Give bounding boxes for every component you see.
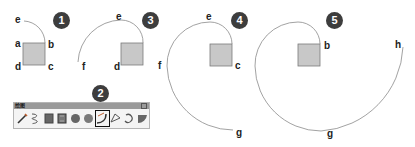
point-label-g: g [327, 129, 333, 139]
three-point-arc-icon [123, 113, 134, 124]
point-label-c: c [48, 62, 54, 72]
point-label-b: b [48, 40, 54, 50]
drawing-toolbar: 绘图 [13, 102, 150, 129]
rotated-rectangle-icon [57, 113, 67, 124]
toolbar-title: 绘图 [15, 102, 25, 109]
pencil-icon [17, 113, 28, 124]
point-label-e: e [206, 12, 212, 22]
toolbar-titlebar[interactable]: 绘图 [14, 103, 149, 109]
circle-tool-button[interactable] [69, 111, 82, 126]
freehand-tool-button[interactable] [29, 111, 42, 126]
arc-panel-4 [167, 22, 233, 130]
point-label-d: d [15, 62, 21, 72]
pie-tool-button[interactable] [136, 111, 149, 126]
square-panel-1 [23, 43, 45, 65]
step-badge-3: 3 [142, 12, 159, 29]
polygon-tool-button[interactable] [82, 111, 95, 126]
step-badge-1: 1 [53, 12, 70, 29]
circle-icon [70, 113, 81, 124]
step-badge-2: 2 [92, 85, 109, 102]
point-label-h: h [395, 40, 401, 50]
pie-icon [137, 113, 148, 124]
two-point-arc-icon [110, 113, 121, 124]
rectangle-icon [44, 113, 54, 124]
rotated-rectangle-tool-button[interactable] [56, 111, 69, 126]
freehand-icon [30, 113, 41, 125]
square-panel-3 [121, 43, 143, 65]
line-tool-button[interactable] [16, 111, 29, 126]
point-label-g: g [236, 128, 242, 138]
step-badge-4: 4 [231, 12, 248, 29]
point-label-c: c [235, 61, 241, 71]
square-panel-5 [298, 44, 320, 66]
arc-icon [96, 112, 108, 125]
arc-panel-1 [24, 21, 45, 43]
point-label-d: d [114, 62, 120, 72]
rectangle-tool-button[interactable] [43, 111, 56, 126]
point-label-a: a [15, 39, 21, 49]
square-panel-4 [210, 44, 232, 66]
point-label-f: f [82, 62, 85, 72]
two-point-arc-tool-button[interactable] [109, 111, 122, 126]
point-label-f: f [158, 61, 161, 71]
arc-panel-5 [255, 22, 403, 131]
point-label-b: b [324, 41, 330, 51]
point-label-e: e [15, 15, 21, 25]
step-badge-5: 5 [326, 12, 343, 29]
polygon-icon [83, 113, 94, 124]
point-label-e: e [116, 12, 122, 22]
toolbar-close-icon[interactable] [141, 103, 147, 109]
arc-tool-button[interactable] [96, 111, 109, 126]
three-point-arc-tool-button[interactable] [122, 111, 135, 126]
